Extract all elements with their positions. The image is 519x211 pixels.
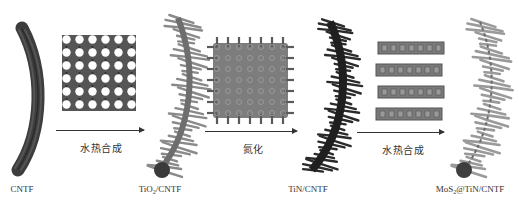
tio2-cntf-label: TiO2/CNTF xyxy=(139,184,182,195)
cntf-label: CNTF xyxy=(10,184,33,194)
mos2-tin-cntf-label: MoS2@TiN/CNTF xyxy=(436,184,505,195)
tin-cntf-label: TiN/CNTF xyxy=(288,184,328,194)
step-1-arrow xyxy=(56,130,144,131)
mos2-tin-cntf-fiber xyxy=(0,0,519,211)
step-3-label: 水热合成 xyxy=(382,142,424,157)
step-2-label: 氮化 xyxy=(243,141,264,156)
step-1-label: 水热合成 xyxy=(80,140,122,155)
step-2-arrow xyxy=(205,131,297,132)
step-3-arrow xyxy=(357,132,444,133)
